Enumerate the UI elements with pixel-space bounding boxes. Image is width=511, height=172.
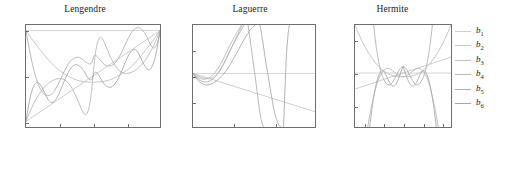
ytickmark-hermite-0: [355, 41, 358, 42]
panel-legendre: Lengendre 1 0 -1 -1 -0.5 0: [0, 0, 170, 172]
ytickmark-legendre-1: [26, 77, 29, 78]
ytickmark-laguerre-2: [193, 77, 196, 78]
legend-line-icon-b5: [455, 89, 471, 90]
legend-line-icon-b6: [455, 103, 471, 104]
legend-line-icon-b2: [455, 45, 471, 46]
curve-hermite-b3: [355, 25, 451, 77]
curve-laguerre-b4: [193, 25, 242, 79]
xtickmark-hermite-0: [365, 124, 366, 127]
legend-line-icon-b1: [455, 31, 471, 32]
legend-item-b6: b6: [455, 97, 511, 112]
legend-label-b2: b2: [476, 40, 484, 51]
ytickmark-hermite-1: [355, 74, 358, 75]
legend-label-b4: b4: [476, 69, 484, 80]
legend-item-b5: b5: [455, 82, 511, 97]
legend-label-b6: b6: [476, 98, 484, 109]
ytickmark-laguerre-3: [193, 103, 196, 104]
xtickmark-legendre-1: [60, 124, 61, 127]
legend-label-b1: b1: [476, 26, 484, 37]
legend-item-b1: b1: [455, 24, 511, 39]
panel-title-legendre: Lengendre: [0, 4, 170, 14]
ytickmark-hermite-2: [355, 107, 358, 108]
ytickmark-legendre-0: [26, 31, 29, 32]
curves-legendre: [26, 25, 160, 127]
legend-item-b4: b4: [455, 68, 511, 83]
plot-area-hermite: 10 0 -10 -4 -2 0 2 4 x: [354, 24, 452, 128]
xtickmark-laguerre-2: [276, 124, 277, 127]
legend-item-b2: b2: [455, 39, 511, 54]
plot-area-laguerre: 20 10 0 -10 -20 0 5 10 15 x: [192, 24, 316, 128]
ytickmark-legendre-2: [26, 123, 29, 124]
curve-hermite-b6: [370, 66, 437, 127]
xtickmark-hermite-3: [424, 124, 425, 127]
legend-label-b5: b5: [476, 84, 484, 95]
curves-laguerre: [193, 25, 315, 127]
panel-title-laguerre: Laguerre: [170, 4, 330, 14]
curve-laguerre-b3: [193, 25, 242, 79]
curves-hermite: [355, 25, 451, 127]
polynomial-basis-figure: Lengendre 1 0 -1 -1 -0.5 0: [0, 0, 511, 172]
curve-laguerre-b5: [193, 25, 264, 127]
curve-laguerre-b6: [193, 25, 289, 127]
xtickmark-hermite-1: [384, 124, 385, 127]
legend-line-icon-b3: [455, 60, 471, 61]
xtickmark-legendre-3: [128, 124, 129, 127]
legend-line-icon-b4: [455, 74, 471, 75]
xtickmark-hermite-2: [404, 124, 405, 127]
curve-laguerre-b2: [193, 73, 315, 111]
legend-label-b3: b3: [476, 55, 484, 66]
panel-laguerre: Laguerre 20 10 0 -10 -20 0 5: [170, 0, 330, 172]
panel-title-hermite: Hermite: [330, 4, 455, 14]
xtickmark-legendre-2: [94, 124, 95, 127]
ytickmark-laguerre-1: [193, 51, 196, 52]
legend: b1 b2 b3 b4 b5 b6: [455, 24, 511, 111]
legend-item-b3: b3: [455, 53, 511, 68]
panel-hermite: Hermite 10 0 -10 -4 -2 0 2 4: [330, 0, 455, 172]
plot-area-legendre: 1 0 -1 -1 -0.5 0 0.5 1 x: [25, 24, 161, 128]
xtickmark-hermite-4: [443, 124, 444, 127]
xtickmark-laguerre-1: [234, 124, 235, 127]
